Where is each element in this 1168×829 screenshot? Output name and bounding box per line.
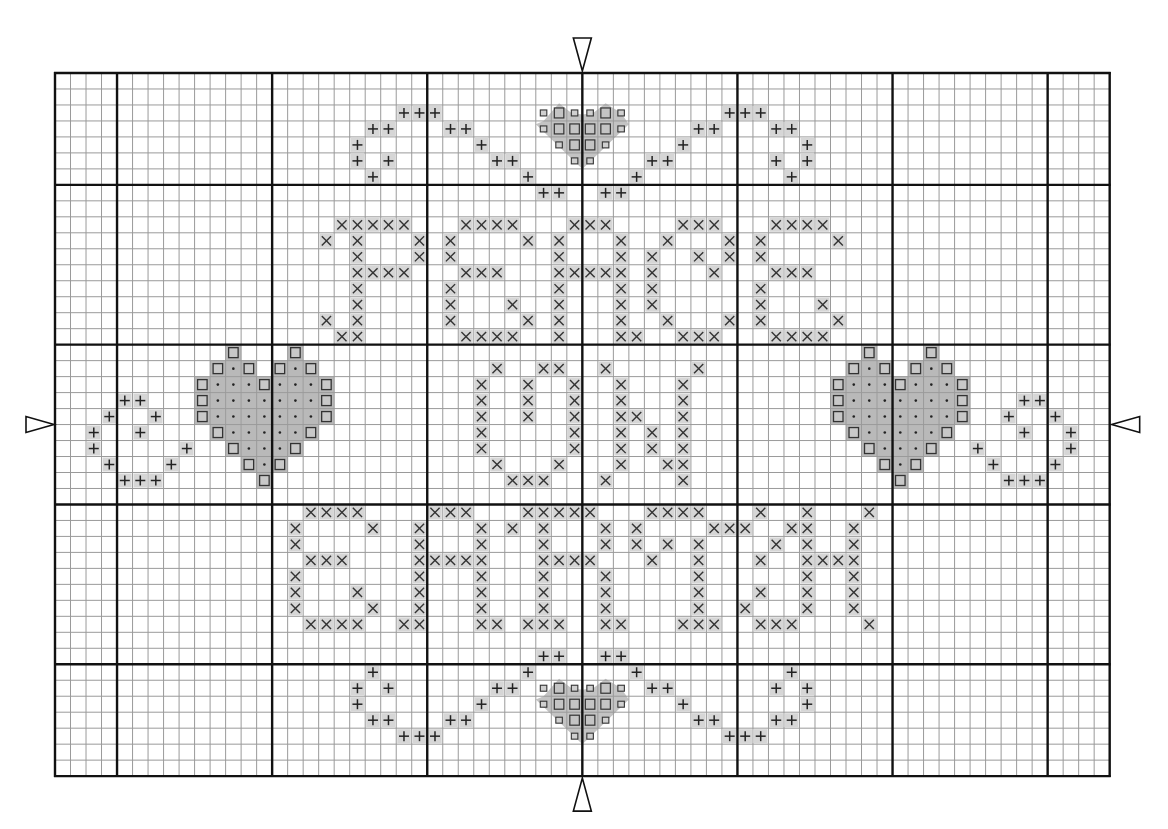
large-square-icon xyxy=(570,715,580,725)
square-outline-icon xyxy=(958,396,968,406)
dot-icon xyxy=(899,463,902,466)
small-square-icon xyxy=(587,685,594,691)
dot-icon xyxy=(279,431,282,434)
small-square-icon xyxy=(587,158,594,164)
square-outline-icon xyxy=(291,444,301,454)
dot-icon xyxy=(883,431,886,434)
small-square-icon xyxy=(571,733,578,739)
large-square-icon xyxy=(570,124,580,134)
dot-icon xyxy=(263,431,266,434)
square-outline-icon xyxy=(958,380,968,390)
dot-icon xyxy=(248,447,251,450)
square-outline-icon xyxy=(849,428,859,438)
square-outline-icon xyxy=(322,380,332,390)
dot-icon xyxy=(279,415,282,418)
square-outline-icon xyxy=(244,460,254,470)
small-square-icon xyxy=(618,110,625,116)
square-outline-icon xyxy=(880,364,890,374)
square-outline-icon xyxy=(260,380,270,390)
dot-icon xyxy=(279,383,282,386)
dot-icon xyxy=(248,431,251,434)
dot-icon xyxy=(294,431,297,434)
square-outline-icon xyxy=(198,380,208,390)
square-outline-icon xyxy=(834,412,844,422)
dot-icon xyxy=(310,399,313,402)
large-square-icon xyxy=(601,108,611,118)
dot-icon xyxy=(899,399,902,402)
large-square-icon xyxy=(554,124,564,134)
square-outline-icon xyxy=(834,396,844,406)
dot-icon xyxy=(232,383,235,386)
dot-icon xyxy=(294,399,297,402)
square-outline-icon xyxy=(942,364,952,374)
dot-icon xyxy=(899,431,902,434)
square-outline-icon xyxy=(275,364,285,374)
dot-icon xyxy=(232,399,235,402)
square-outline-icon xyxy=(927,348,937,358)
center-marker-top-icon xyxy=(573,38,591,71)
dot-icon xyxy=(899,447,902,450)
dot-icon xyxy=(930,399,933,402)
center-marker-right-icon xyxy=(1112,417,1140,433)
dot-icon xyxy=(852,383,855,386)
small-square-icon xyxy=(556,717,563,723)
large-square-icon xyxy=(554,108,564,118)
small-square-icon xyxy=(618,701,625,707)
dot-icon xyxy=(946,399,949,402)
large-square-icon xyxy=(601,699,611,709)
dot-icon xyxy=(310,415,313,418)
dot-icon xyxy=(868,399,871,402)
dot-icon xyxy=(930,431,933,434)
dot-icon xyxy=(915,399,918,402)
small-square-icon xyxy=(602,717,609,723)
large-square-icon xyxy=(601,683,611,693)
dot-icon xyxy=(217,399,220,402)
center-marker-left-icon xyxy=(26,417,54,433)
square-outline-icon xyxy=(306,428,316,438)
dot-icon xyxy=(883,383,886,386)
dot-icon xyxy=(852,399,855,402)
square-outline-icon xyxy=(213,364,223,374)
square-outline-icon xyxy=(958,412,968,422)
dot-icon xyxy=(263,399,266,402)
dot-icon xyxy=(248,399,251,402)
small-square-icon xyxy=(618,685,625,691)
dot-icon xyxy=(930,367,933,370)
dot-icon xyxy=(868,383,871,386)
dot-icon xyxy=(868,431,871,434)
square-outline-icon xyxy=(911,364,921,374)
dot-icon xyxy=(294,415,297,418)
large-square-icon xyxy=(570,699,580,709)
square-outline-icon xyxy=(198,412,208,422)
square-outline-icon xyxy=(942,428,952,438)
small-square-icon xyxy=(571,158,578,164)
dot-icon xyxy=(915,431,918,434)
dot-icon xyxy=(279,399,282,402)
dot-icon xyxy=(232,367,235,370)
large-square-icon xyxy=(585,124,595,134)
dot-icon xyxy=(248,415,251,418)
dot-icon xyxy=(868,415,871,418)
square-outline-icon xyxy=(896,380,906,390)
dot-icon xyxy=(915,415,918,418)
small-square-icon xyxy=(571,685,578,691)
small-square-icon xyxy=(540,685,547,691)
square-outline-icon xyxy=(865,444,875,454)
square-outline-icon xyxy=(198,396,208,406)
dot-icon xyxy=(217,415,220,418)
small-square-icon xyxy=(540,701,547,707)
dot-icon xyxy=(263,463,266,466)
dot-icon xyxy=(930,383,933,386)
cross-stitch-chart xyxy=(0,0,1168,829)
dot-icon xyxy=(883,447,886,450)
square-outline-icon xyxy=(849,364,859,374)
dot-icon xyxy=(883,415,886,418)
square-outline-icon xyxy=(911,460,921,470)
small-square-icon xyxy=(602,142,609,148)
square-outline-icon xyxy=(322,396,332,406)
square-outline-icon xyxy=(275,460,285,470)
square-outline-icon xyxy=(291,348,301,358)
dot-icon xyxy=(946,383,949,386)
dot-icon xyxy=(217,383,220,386)
large-square-icon xyxy=(554,699,564,709)
